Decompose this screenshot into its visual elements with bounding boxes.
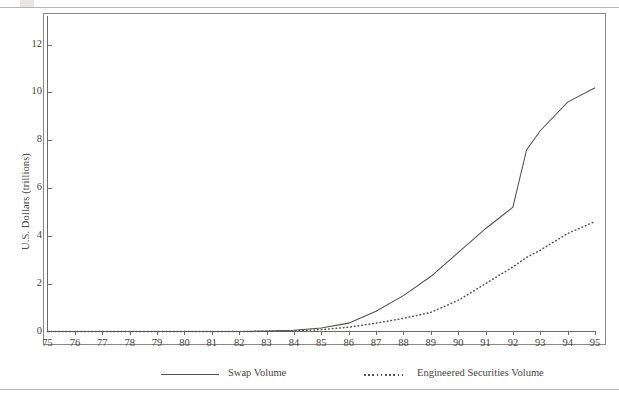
y-tick-label: 10 bbox=[20, 85, 42, 96]
x-tick-label: 81 bbox=[202, 337, 222, 348]
legend-label-swap-volume: Swap Volume bbox=[228, 367, 286, 378]
x-tick-label: 90 bbox=[448, 337, 468, 348]
x-tick-mark bbox=[540, 331, 541, 335]
x-tick-label: 89 bbox=[421, 337, 441, 348]
x-tick-mark bbox=[321, 331, 322, 335]
x-tick-label: 82 bbox=[229, 337, 249, 348]
x-tick-mark bbox=[239, 331, 240, 335]
x-tick-mark bbox=[157, 331, 158, 335]
x-tick-mark bbox=[568, 331, 569, 335]
legend-swatch-dotted bbox=[364, 374, 406, 376]
x-tick-mark bbox=[130, 331, 131, 335]
y-tick-label: 6 bbox=[20, 181, 42, 192]
x-tick-mark bbox=[349, 331, 350, 335]
x-tick-mark bbox=[294, 331, 295, 335]
legend-swatch-solid bbox=[161, 374, 219, 375]
x-tick-mark bbox=[486, 331, 487, 335]
y-tick-label: 0 bbox=[20, 325, 42, 336]
x-tick-mark bbox=[431, 331, 432, 335]
x-tick-label: 93 bbox=[530, 337, 550, 348]
x-tick-mark bbox=[458, 331, 459, 335]
y-tick-mark bbox=[47, 45, 52, 46]
figure-root: U.S. Dollars (trillions) 024681012 75767… bbox=[0, 0, 619, 397]
y-tick-label: 12 bbox=[20, 38, 42, 49]
x-tick-mark bbox=[595, 331, 596, 335]
x-tick-label: 79 bbox=[147, 337, 167, 348]
x-tick-label: 80 bbox=[174, 337, 194, 348]
x-tick-label: 94 bbox=[558, 337, 578, 348]
y-tick-mark bbox=[47, 140, 52, 141]
x-tick-label: 75 bbox=[38, 337, 58, 348]
x-tick-label: 95 bbox=[585, 337, 605, 348]
x-tick-mark bbox=[212, 331, 213, 335]
x-tick-mark bbox=[102, 331, 103, 335]
top-divider-rule bbox=[0, 7, 619, 8]
bottom-divider-rule bbox=[0, 389, 619, 390]
y-axis-title: U.S. Dollars (trillions) bbox=[20, 137, 31, 267]
y-tick-mark bbox=[47, 284, 52, 285]
x-tick-label: 92 bbox=[503, 337, 523, 348]
x-tick-mark bbox=[184, 331, 185, 335]
x-tick-mark bbox=[513, 331, 514, 335]
legend-label-engineered-securities-volume: Engineered Securities Volume bbox=[417, 367, 544, 378]
x-tick-mark bbox=[403, 331, 404, 335]
x-tick-mark bbox=[75, 331, 76, 335]
y-tick-label: 4 bbox=[20, 229, 42, 240]
x-tick-label: 84 bbox=[284, 337, 304, 348]
x-tick-mark bbox=[267, 331, 268, 335]
x-tick-label: 77 bbox=[92, 337, 112, 348]
y-tick-mark bbox=[47, 92, 52, 93]
y-tick-mark bbox=[47, 188, 52, 189]
x-tick-label: 88 bbox=[393, 337, 413, 348]
y-tick-label: 8 bbox=[20, 133, 42, 144]
x-tick-label: 86 bbox=[339, 337, 359, 348]
x-tick-label: 76 bbox=[65, 337, 85, 348]
x-tick-label: 85 bbox=[311, 337, 331, 348]
chart-legend: Swap Volume Engineered Securities Volume bbox=[0, 366, 619, 382]
x-tick-label: 78 bbox=[120, 337, 140, 348]
chart-frame bbox=[43, 13, 606, 345]
x-tick-label: 91 bbox=[476, 337, 496, 348]
x-tick-label: 83 bbox=[257, 337, 277, 348]
y-tick-label: 2 bbox=[20, 277, 42, 288]
y-tick-mark bbox=[47, 236, 52, 237]
x-tick-mark bbox=[376, 331, 377, 335]
x-tick-label: 87 bbox=[366, 337, 386, 348]
